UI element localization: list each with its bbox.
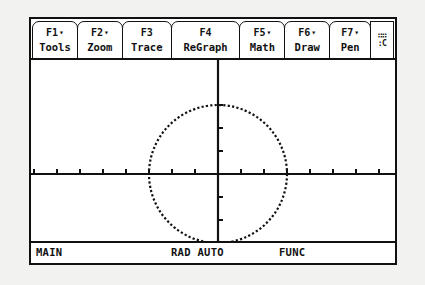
toolbar-fkey-f7-text: F7 xyxy=(341,28,353,38)
chevron-down-icon: ▾ xyxy=(104,29,109,37)
toolbar-button-tools[interactable]: F1 ▾ Tools xyxy=(32,21,78,59)
toolbar-button-zoom[interactable]: F2 ▾ Zoom xyxy=(77,21,123,59)
page-background: F1 ▾ Tools F2 ▾ Zoom F3 Trace xyxy=(0,0,425,285)
toolbar-label-tools: Tools xyxy=(39,40,71,54)
toolbar: F1 ▾ Tools F2 ▾ Zoom F3 Trace xyxy=(31,19,395,59)
toolbar-fkey-f1-text: F1 xyxy=(46,28,58,38)
toolbar-fkey-f3: F3 xyxy=(141,26,153,40)
graph-plot xyxy=(31,60,395,241)
busy-indicator: ∷∷ :C xyxy=(370,21,394,59)
toolbar-label-math: Math xyxy=(250,40,275,54)
toolbar-fkey-f3-text: F3 xyxy=(141,28,153,38)
chevron-down-icon: ▾ xyxy=(266,29,271,37)
toolbar-button-trace[interactable]: F3 Trace xyxy=(122,21,172,59)
toolbar-fkey-f4: F4 xyxy=(199,26,211,40)
status-bar: MAIN RAD AUTO FUNC xyxy=(31,243,395,263)
chevron-down-icon: ▾ xyxy=(354,29,359,37)
status-angle-mode: RAD AUTO xyxy=(171,246,224,258)
chevron-down-icon: ▾ xyxy=(311,29,316,37)
calculator-screen: F1 ▾ Tools F2 ▾ Zoom F3 Trace xyxy=(29,17,397,265)
toolbar-button-regraph[interactable]: F4 ReGraph xyxy=(171,21,241,59)
toolbar-label-draw: Draw xyxy=(295,40,320,54)
busy-indicator-row-2: :C xyxy=(378,40,387,48)
graph-canvas[interactable] xyxy=(31,60,395,241)
toolbar-label-regraph: ReGraph xyxy=(183,40,227,54)
toolbar-fkey-f6: F6 ▾ xyxy=(298,26,316,40)
toolbar-fkey-f7: F7 ▾ xyxy=(341,26,359,40)
toolbar-fkey-f2-text: F2 xyxy=(91,28,103,38)
chevron-down-icon: ▾ xyxy=(59,29,64,37)
toolbar-fkey-f5-text: F5 xyxy=(253,28,265,38)
toolbar-fkey-f4-text: F4 xyxy=(199,28,211,38)
toolbar-button-draw[interactable]: F6 ▾ Draw xyxy=(284,21,330,59)
toolbar-fkey-f2: F2 ▾ xyxy=(91,26,109,40)
toolbar-fkey-f1: F1 ▾ xyxy=(46,26,64,40)
toolbar-fkey-f6-text: F6 xyxy=(298,28,310,38)
toolbar-label-zoom: Zoom xyxy=(87,40,112,54)
toolbar-button-pen[interactable]: F7 ▾ Pen xyxy=(329,21,371,59)
toolbar-button-math[interactable]: F5 ▾ Math xyxy=(239,21,285,59)
toolbar-label-pen: Pen xyxy=(341,40,360,54)
toolbar-label-trace: Trace xyxy=(131,40,163,54)
toolbar-fkey-f5: F5 ▾ xyxy=(253,26,271,40)
status-graph-mode: FUNC xyxy=(279,246,306,258)
axis-layer xyxy=(31,60,395,241)
status-current-folder: MAIN xyxy=(36,246,63,258)
